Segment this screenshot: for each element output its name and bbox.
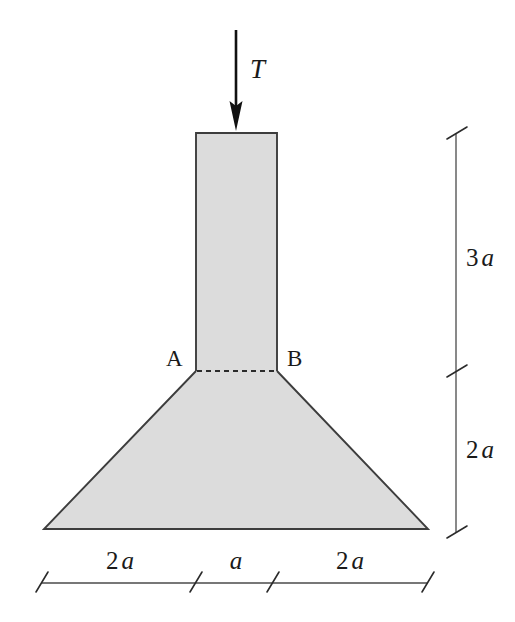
horizontal-dimension-label-right-2a: 2a: [336, 547, 364, 574]
horizontal-tick-column-left: [190, 572, 202, 592]
dim-h-left-unit: a: [122, 547, 135, 574]
engineering-diagram: T A B 3a 2a: [0, 0, 515, 622]
dim-v2a-unit: a: [482, 436, 495, 463]
dim-3a-unit: a: [482, 244, 495, 271]
vertical-dimension-label-2a: 2a: [466, 436, 494, 463]
horizontal-dimension-label-left-2a: 2a: [106, 547, 134, 574]
vertical-tick-middle: [447, 365, 467, 377]
structure-body: [44, 133, 428, 529]
horizontal-tick-left: [36, 572, 48, 592]
horizontal-dimension-label-middle-a: a: [230, 547, 243, 574]
dim-h-mid-unit: a: [230, 547, 243, 574]
horizontal-dimension-chain: 2a a 2a: [36, 547, 434, 592]
dim-h-right-unit: a: [352, 547, 365, 574]
horizontal-tick-right: [422, 572, 434, 592]
vertical-tick-top: [447, 127, 467, 139]
dim-3a-number: 3: [466, 244, 479, 271]
vertical-tick-bottom: [447, 526, 467, 538]
vertical-dimension-chain: 3a 2a: [447, 127, 494, 538]
label-point-a: A: [166, 346, 183, 371]
dim-v2a-number: 2: [466, 436, 479, 463]
dim-h-left-number: 2: [106, 547, 119, 574]
load-label-T: T: [250, 54, 267, 84]
dim-h-right-number: 2: [336, 547, 349, 574]
horizontal-tick-column-right: [267, 572, 279, 592]
load-arrow-group: T: [230, 30, 268, 131]
label-point-b: B: [287, 346, 302, 371]
vertical-dimension-label-3a: 3a: [466, 244, 494, 271]
figure-canvas: T A B 3a 2a: [0, 0, 515, 622]
